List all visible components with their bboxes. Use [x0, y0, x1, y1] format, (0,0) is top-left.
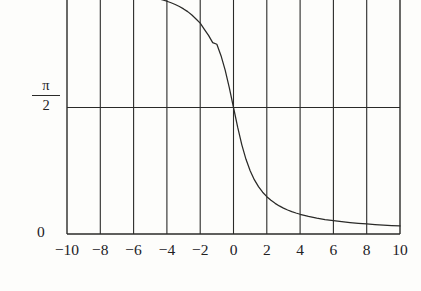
x-axis-tick-label--8: −8 — [92, 242, 109, 258]
y-axis-label-pi-half: π 2 — [32, 78, 60, 113]
y-axis-label-pi-numerator: π — [32, 78, 60, 93]
x-axis-tick-label-4: 4 — [296, 242, 304, 258]
x-axis-tick-label-6: 6 — [330, 242, 338, 258]
gridlines-group — [67, 0, 400, 234]
fraction-bar-icon — [32, 95, 60, 96]
y-axis-label-zero: 0 — [37, 224, 45, 240]
figure-canvas: π 2 0 −10−8−6−4−20246810 — [0, 0, 421, 291]
x-axis-tick-label--4: −4 — [159, 242, 176, 258]
x-axis-tick-label-10: 10 — [392, 242, 408, 258]
curve-group — [159, 0, 400, 226]
x-axis-tick-label-2: 2 — [263, 242, 271, 258]
x-axis-tick-label-0: 0 — [230, 242, 238, 258]
x-axis-tick-label--2: −2 — [192, 242, 209, 258]
x-axis-tick-label--10: −10 — [55, 242, 79, 258]
x-axis-tick-label--6: −6 — [125, 242, 142, 258]
y-axis-label-pi-denominator: 2 — [32, 98, 60, 113]
x-axis-tick-label-8: 8 — [363, 242, 371, 258]
data-curve — [159, 0, 400, 226]
